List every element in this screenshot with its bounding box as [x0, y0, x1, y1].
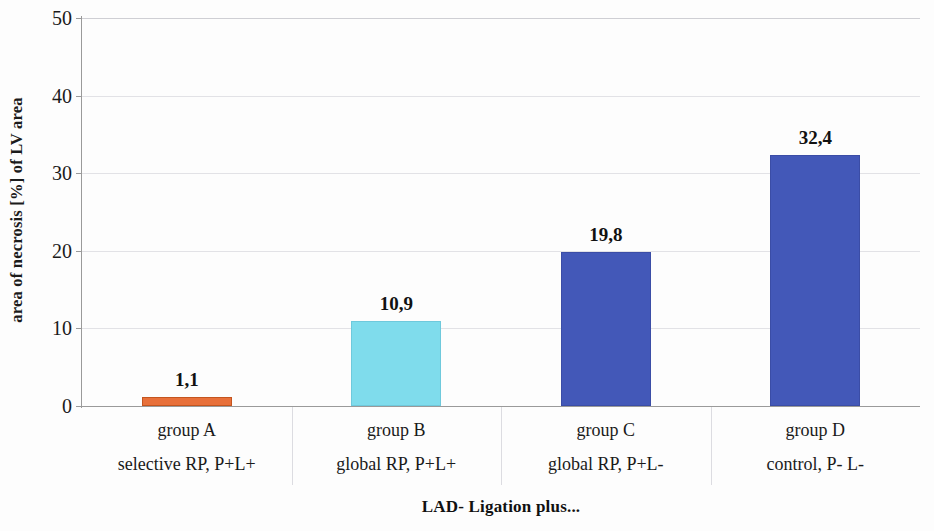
y-tick-label-30: 30	[12, 162, 72, 185]
bar-group-c	[561, 252, 651, 406]
bar-group-b	[351, 321, 441, 406]
gridline-40	[82, 96, 920, 97]
bar-group-a	[142, 397, 232, 406]
category-cell-group-d: group Dcontrol, P- L-	[711, 407, 921, 487]
bar-group-d	[770, 155, 860, 406]
category-label-group-d: group D	[711, 420, 921, 441]
plot-area: 1,110,919,832,4	[82, 18, 920, 406]
category-sublabel-group-d: control, P- L-	[711, 454, 921, 475]
category-label-group-c: group C	[501, 420, 711, 441]
y-tick-label-20: 20	[12, 239, 72, 262]
category-sublabel-group-a: selective RP, P+L+	[82, 454, 292, 475]
y-tick-label-40: 40	[12, 84, 72, 107]
y-tick-label-0: 0	[12, 395, 72, 418]
category-sublabel-group-c: global RP, P+L-	[501, 454, 711, 475]
category-axis: group Aselective RP, P+L+group Bglobal R…	[82, 407, 920, 487]
category-cell-group-b: group Bglobal RP, P+L+	[292, 407, 502, 487]
bar-value-label-group-d: 32,4	[770, 127, 860, 149]
y-tick-label-50: 50	[12, 7, 72, 30]
gridline-50	[82, 18, 920, 19]
y-tick-label-10: 10	[12, 317, 72, 340]
bar-value-label-group-a: 1,1	[142, 369, 232, 391]
category-label-group-a: group A	[82, 420, 292, 441]
category-cell-group-c: group Cglobal RP, P+L-	[501, 407, 711, 487]
category-sublabel-group-b: global RP, P+L+	[292, 454, 502, 475]
y-axis-tick-labels: 50403020100	[0, 0, 72, 531]
bar-value-label-group-b: 10,9	[351, 293, 441, 315]
bar-chart-figure: area of necrosis [%] of LV area 50403020…	[0, 0, 934, 531]
category-label-group-b: group B	[292, 420, 502, 441]
x-axis-title: LAD- Ligation plus...	[82, 497, 920, 517]
bar-value-label-group-c: 19,8	[561, 224, 651, 246]
category-cell-group-a: group Aselective RP, P+L+	[82, 407, 292, 487]
